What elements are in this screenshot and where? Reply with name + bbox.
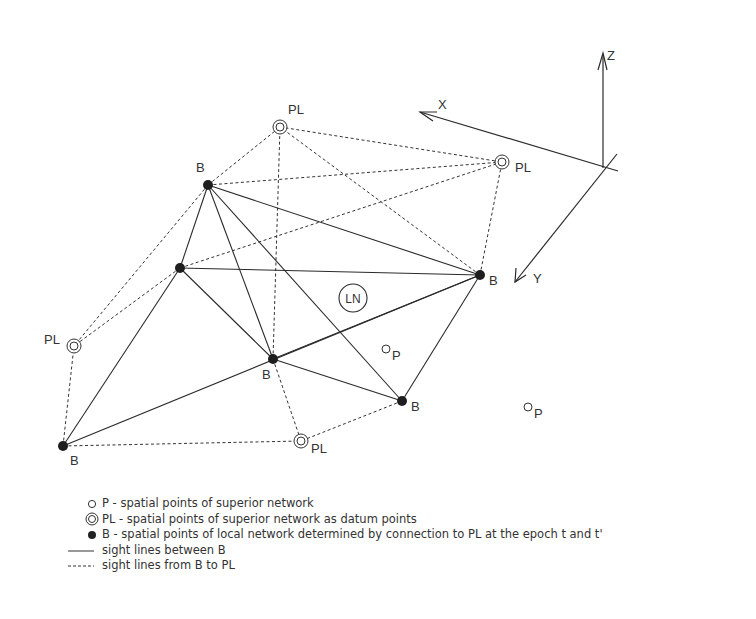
p-point-label: P (392, 348, 401, 363)
pl-point-label: PL (311, 441, 327, 456)
sight-lines-b-to-pl (63, 127, 502, 446)
sight-line-dashed (180, 162, 502, 268)
b-point-label: B (70, 453, 79, 468)
points-layer: BBBBBPLPLPLPLPP (44, 102, 543, 468)
local-network-label: LN (345, 292, 360, 306)
sight-line-solid (180, 268, 480, 275)
sight-line-dashed (480, 162, 502, 275)
b-point-icon (268, 354, 278, 364)
p-point-label: P (534, 406, 543, 421)
y-axis-label: Y (533, 271, 542, 286)
sight-line-dashed (273, 359, 301, 441)
p-point-icon (524, 403, 532, 411)
legend-text: sight lines from B to PL (102, 558, 235, 573)
legend-item-b: B - spatial points of local network dete… (84, 527, 603, 543)
sight-line-dashed (63, 441, 301, 446)
b-point-icon (203, 180, 213, 190)
dashed-line-icon (68, 558, 96, 573)
local-network-badge: LN (339, 284, 367, 312)
legend-text: P - spatial points of superior network (102, 496, 314, 511)
b-point-label: B (411, 399, 420, 414)
b-point-label: B (262, 367, 271, 382)
pl-point-label: PL (515, 160, 531, 175)
sight-line-dashed (273, 127, 280, 359)
open-circle-icon (84, 499, 100, 509)
legend: P - spatial points of superior network P… (84, 496, 603, 574)
sight-line-dashed (280, 127, 502, 162)
filled-circle-icon (84, 530, 100, 540)
sight-line-dashed (301, 401, 402, 441)
pl-point-icon (67, 339, 81, 353)
b-point-label: B (489, 273, 498, 288)
pl-point-icon (495, 155, 509, 169)
pl-point-icon (273, 120, 287, 134)
legend-item-solid-line: sight lines between B (84, 543, 603, 559)
x-axis-label: X (438, 97, 447, 112)
b-point-label: B (196, 160, 205, 175)
legend-text: B - spatial points of local network dete… (102, 527, 603, 542)
double-circle-icon (84, 512, 100, 526)
pl-point-icon (294, 434, 308, 448)
legend-item-pl: PL - spatial points of superior network … (84, 512, 603, 528)
pl-point-label: PL (44, 332, 60, 347)
sight-line-solid (208, 185, 273, 359)
legend-text: PL - spatial points of superior network … (102, 512, 417, 527)
sight-line-dashed (74, 268, 180, 346)
sight-line-dashed (208, 162, 502, 185)
z-axis-label: Z (607, 48, 615, 63)
b-point-icon (58, 441, 68, 451)
sight-line-dashed (280, 127, 480, 275)
b-point-icon (397, 396, 407, 406)
sight-line-solid (402, 275, 480, 401)
sight-line-dashed (208, 127, 280, 185)
sight-line-solid (180, 268, 273, 359)
p-point-icon (382, 345, 390, 353)
solid-line-icon (68, 543, 96, 558)
legend-text: sight lines between B (102, 543, 226, 558)
pl-point-label: PL (288, 102, 304, 117)
b-point-icon (475, 270, 485, 280)
sight-line-solid (63, 268, 180, 446)
legend-item-p: P - spatial points of superior network (84, 496, 603, 512)
b-point-icon (175, 263, 185, 273)
sight-line-solid (180, 185, 208, 268)
legend-item-dashed-line: sight lines from B to PL (84, 558, 603, 574)
